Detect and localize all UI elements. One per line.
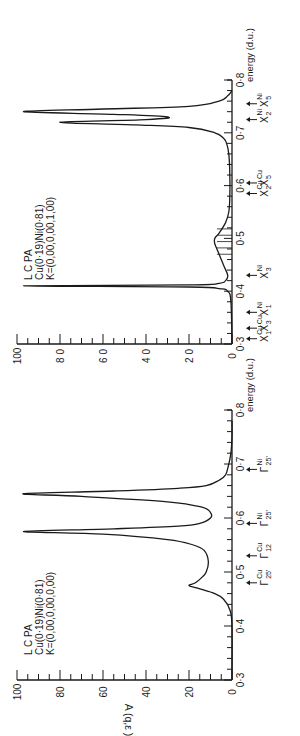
chart-svg: 0·30·40·50·60·70·8energy (d.u.)02 04 06 … xyxy=(0,0,300,736)
top-annotation-arrow-head xyxy=(246,180,250,185)
top-annotation-label: X xyxy=(259,309,270,316)
top-annotation-arrow-head xyxy=(246,326,250,331)
bottom-energy-axis-label: energy (d.u.) xyxy=(244,358,255,412)
bottom-annotation-superscript: Cu xyxy=(256,570,263,579)
bottom-intensity-tick-label: 60 xyxy=(98,686,109,698)
bottom-energy-tick-label: 0·3 xyxy=(235,672,246,687)
bottom-intensity-tick-label: 100 xyxy=(12,683,23,700)
bottom-intensity-tick-label: 80 xyxy=(55,686,66,698)
bottom-annotation-label: Γ xyxy=(259,520,270,526)
top-annotation-label: X xyxy=(259,100,270,107)
panel-bottom: 0·30·40·50·60·70·8energy (d.u.)020406080… xyxy=(12,358,272,736)
top-intensity-tick-label: 4 0 xyxy=(141,349,152,363)
bottom-annotation-superscript: Ni xyxy=(256,458,263,465)
bottom-energy-tick-label: 0·6 xyxy=(235,510,246,525)
top-intensity-tick-label: 100 xyxy=(12,347,23,364)
top-energy-tick-label: 0·7 xyxy=(235,125,246,140)
top-title-line: L C PA xyxy=(23,249,34,280)
bottom-annotation-label: Γ xyxy=(259,553,270,559)
bottom-annotation-subscript: 25' xyxy=(265,456,272,465)
top-title-line: Cu(0·19)Ni(0·81) xyxy=(34,204,45,280)
top-annotation-subscript: 2 xyxy=(265,112,272,116)
top-energy-tick-label: 0·6 xyxy=(235,178,246,193)
bottom-annotation-superscript: Cu xyxy=(256,543,263,552)
bottom-annotation-arrow-head xyxy=(246,521,250,526)
top-energy-axis-label: energy (d.u.) xyxy=(244,28,255,82)
top-annotation-arrow-head xyxy=(246,191,250,196)
bottom-annotation-arrow-head xyxy=(246,467,250,472)
top-annotation-subscript: 3 xyxy=(265,267,272,271)
top-annotation-arrow-head xyxy=(246,336,250,341)
bottom-annotation-label: Γ xyxy=(259,466,270,472)
bottom-annotation-label: Γ xyxy=(259,580,270,586)
top-annotation-label: X xyxy=(259,116,270,123)
top-annotation-arrow-head xyxy=(246,101,250,106)
bottom-intensity-tick-label: 40 xyxy=(141,686,152,698)
bottom-annotation-superscript: Ni xyxy=(256,512,263,519)
top-annotation-arrow-head xyxy=(246,273,250,278)
bottom-intensity-tick-label: 0 xyxy=(227,689,238,695)
bottom-energy-tick-label: 0·7 xyxy=(235,456,246,471)
top-annotation-subscript: 1 xyxy=(265,304,272,308)
top-annotation-arrow-head xyxy=(246,117,250,122)
top-annotation-superscript: Ni xyxy=(256,93,263,100)
bottom-energy-tick-label: 0·4 xyxy=(235,618,246,633)
bottom-annotation-subscript: 25' xyxy=(265,510,272,519)
top-annotation-subscript: 3 xyxy=(265,320,272,324)
top-annotation-arrow-head xyxy=(246,310,250,315)
bottom-title-line: K=(0,00,0,00,0,00) xyxy=(45,572,56,655)
top-intensity-tick-label: 8 0 xyxy=(55,349,66,363)
panel-top: 0·30·40·50·60·70·8energy (d.u.)02 04 06 … xyxy=(12,28,272,364)
top-annotation-label: X xyxy=(259,324,270,331)
top-energy-tick-label: 0·3 xyxy=(235,336,246,351)
top-annotation-label: X xyxy=(259,335,270,342)
top-energy-tick-label: 0·5 xyxy=(235,231,246,246)
top-annotation-superscript: Cu xyxy=(256,170,263,179)
top-annotation-superscript: Ni xyxy=(256,301,263,308)
top-annotation-label: X xyxy=(259,272,270,279)
top-intensity-tick-label: 6 0 xyxy=(98,349,109,363)
top-annotation-subscript: 5 xyxy=(265,96,272,100)
top-annotation-label: X xyxy=(259,190,270,197)
bottom-intensity-axis-label: A (q,ε ) xyxy=(123,704,135,736)
bottom-intensity-tick-label: 20 xyxy=(184,686,195,698)
top-annotation-label: X xyxy=(259,179,270,186)
bottom-title-line: Cu(0·19)Ni(0·81) xyxy=(34,579,45,655)
bottom-annotation-subscript: 25' xyxy=(265,570,272,579)
bottom-energy-tick-label: 0·5 xyxy=(235,564,246,579)
bottom-annotation-arrow-head xyxy=(246,580,250,585)
bottom-title-line: L C PA xyxy=(23,624,34,655)
top-annotation-subscript: 5 xyxy=(265,175,272,179)
bottom-annotation-arrow-head xyxy=(246,553,250,558)
figure: 0·30·40·50·60·70·8energy (d.u.)02 04 06 … xyxy=(0,0,300,736)
top-intensity-tick-label: 2 0 xyxy=(184,349,195,363)
bottom-annotation-subscript: 12 xyxy=(265,544,272,552)
top-title-line: K=(0,00,0,00,1,00) xyxy=(45,197,56,280)
top-annotation-superscript: Ni xyxy=(256,109,263,116)
top-intensity-tick-label: 0 xyxy=(227,353,238,359)
top-annotation-superscript: Ni xyxy=(256,264,263,271)
top-energy-tick-label: 0·4 xyxy=(235,284,246,299)
